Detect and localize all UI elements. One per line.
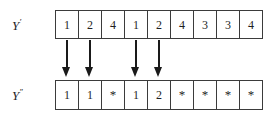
arrow-shaft (89, 40, 91, 69)
sequence-cell: * (102, 81, 125, 109)
arrow-shaft (158, 40, 160, 69)
sequence-cell: 1 (125, 11, 148, 38)
sequence-cell: 1 (125, 81, 148, 109)
arrow-head (131, 67, 139, 77)
sequence-cell: 4 (102, 11, 125, 38)
arrow-head (154, 67, 162, 77)
sequence-cell: 1 (79, 81, 102, 109)
row-label-bottom: Y′′ (12, 88, 22, 102)
down-arrow-icon (55, 39, 78, 80)
row-label-bottom-prime: ′′ (19, 87, 22, 97)
sequence-cell: * (217, 81, 240, 109)
sequence-mapping-diagram: Y′ 1 2 4 1 2 4 3 3 4 Y′′ (0, 0, 276, 120)
sequence-row-top: 1 2 4 1 2 4 3 3 4 (55, 10, 263, 39)
arrow-head (62, 67, 70, 77)
arrow-shaft (66, 40, 68, 69)
arrow-head (85, 67, 93, 77)
sequence-cell: * (171, 81, 194, 109)
arrow-layer (55, 39, 263, 80)
sequence-cell: 1 (56, 81, 79, 109)
down-arrow-icon (147, 39, 170, 80)
sequence-row-bottom: 1 1 * 1 2 * * * * (55, 80, 263, 110)
sequence-cell: 1 (56, 11, 79, 38)
sequence-cell: 4 (171, 11, 194, 38)
row-label-top-prime: ′ (19, 17, 20, 27)
sequence-cell: 2 (79, 11, 102, 38)
sequence-cell: * (194, 81, 217, 109)
sequence-cell: 3 (217, 11, 240, 38)
row-label-top: Y′ (12, 18, 21, 32)
sequence-cell: * (240, 81, 262, 109)
sequence-cell: 2 (148, 11, 171, 38)
arrow-shaft (135, 40, 137, 69)
down-arrow-icon (124, 39, 147, 80)
sequence-cell: 4 (240, 11, 262, 38)
sequence-cell: 2 (148, 81, 171, 109)
sequence-cell: 3 (194, 11, 217, 38)
down-arrow-icon (78, 39, 101, 80)
